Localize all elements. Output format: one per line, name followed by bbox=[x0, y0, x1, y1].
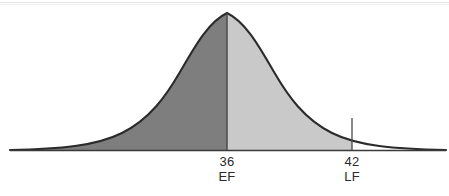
late-finish-code: LF bbox=[322, 169, 382, 184]
early-finish-label: 36 EF bbox=[197, 154, 257, 184]
early-finish-value: 36 bbox=[197, 154, 257, 169]
late-finish-value: 42 bbox=[322, 154, 382, 169]
normal-distribution-chart: 36 EF 42 LF bbox=[0, 0, 449, 196]
region-early-to-late-finish bbox=[227, 0, 352, 152]
region-right-of-late-finish bbox=[352, 0, 449, 152]
region-left-of-early-finish bbox=[0, 0, 227, 152]
late-finish-label: 42 LF bbox=[322, 154, 382, 184]
early-finish-code: EF bbox=[197, 169, 257, 184]
